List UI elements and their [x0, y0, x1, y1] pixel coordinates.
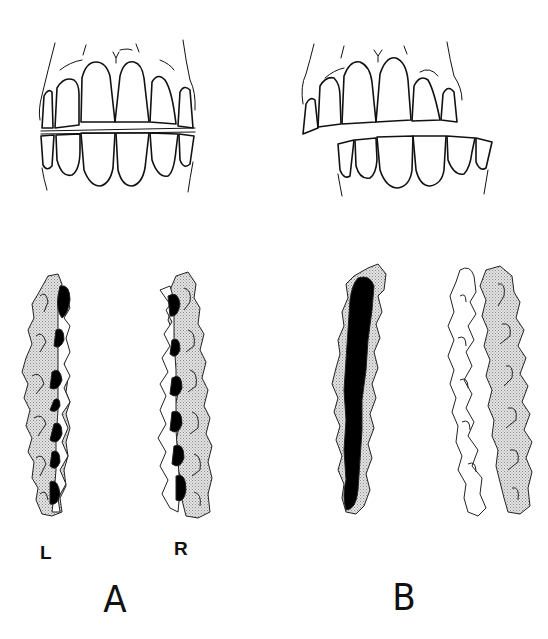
figure-drawing	[0, 0, 548, 639]
panel-b-occlusal-contact	[332, 264, 386, 514]
panel-b-occlusal-no-contact	[448, 266, 532, 516]
side-label-right: R	[174, 539, 188, 558]
panel-a-occlusal-right	[158, 272, 212, 518]
panel-a-occlusal-left	[22, 274, 70, 516]
side-label-left: L	[40, 543, 52, 562]
panel-b-front-teeth	[302, 42, 492, 196]
panel-label-b: B	[392, 578, 415, 616]
dental-occlusion-figure: L R A B	[0, 0, 548, 639]
panel-a-front-teeth	[39, 40, 195, 192]
panel-label-a: A	[103, 580, 126, 618]
